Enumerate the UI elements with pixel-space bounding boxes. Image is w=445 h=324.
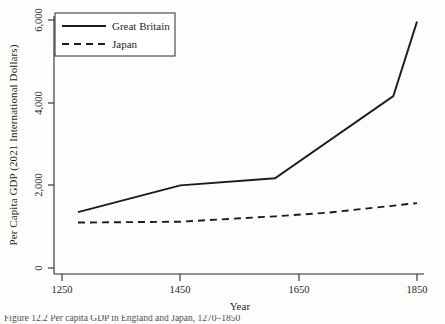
y-axis-title: Per Capita GDP (2021 International Dolla… <box>7 44 20 245</box>
figure-container: 0 2,000 4,000 6,000 Per Capita GDP (2021… <box>0 0 445 324</box>
figure-caption: Figure 12.2 Per capita GDP in England an… <box>4 315 240 323</box>
x-tick-label: 1850 <box>407 284 428 295</box>
x-axis-title: Year <box>230 300 251 312</box>
x-tick-label: 1250 <box>52 284 73 295</box>
y-tick-label: 0 <box>33 265 44 270</box>
chart-legend[interactable]: Great Britain Japan <box>55 13 175 56</box>
x-axis-ticks <box>62 274 417 281</box>
x-axis-tick-labels: 1250 1450 1650 1850 <box>52 284 428 295</box>
y-axis-tick-labels: 0 2,000 4,000 6,000 <box>33 8 44 270</box>
series-line-japan <box>78 203 417 222</box>
legend-label-great-britain: Great Britain <box>112 20 170 32</box>
figure-caption-strip: Figure 12.2 Per capita GDP in England an… <box>0 315 445 324</box>
x-tick-label: 1650 <box>289 284 310 295</box>
x-tick-label: 1450 <box>170 284 191 295</box>
legend-label-japan: Japan <box>112 38 138 50</box>
y-tick-label: 2,000 <box>33 173 44 197</box>
y-tick-label: 4,000 <box>33 91 44 115</box>
y-axis-ticks <box>48 20 54 268</box>
line-chart: 0 2,000 4,000 6,000 Per Capita GDP (2021… <box>0 0 445 324</box>
y-tick-label: 6,000 <box>33 8 44 32</box>
